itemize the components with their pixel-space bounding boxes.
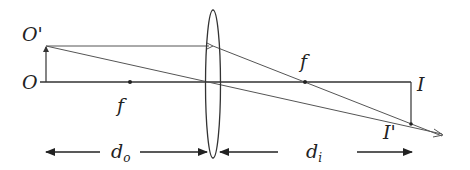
image-top-point [409, 122, 413, 126]
label-focal-left: f [115, 94, 127, 116]
label-object-top: O' [22, 23, 43, 45]
label-focal-right: f [298, 50, 310, 72]
focal-point-right [303, 80, 307, 84]
label-image-distance-sub: i [318, 151, 322, 165]
label-image-base: I [416, 73, 425, 95]
label-object-base: O [22, 71, 38, 93]
label-image-distance: di [306, 140, 322, 165]
label-image-top: I' [382, 121, 396, 143]
focal-point-left [128, 80, 132, 84]
label-object-distance-sub: o [123, 151, 130, 165]
label-object-distance: do [111, 140, 130, 165]
lens-ray-diagram: O' O f f I I' do di [0, 0, 470, 170]
